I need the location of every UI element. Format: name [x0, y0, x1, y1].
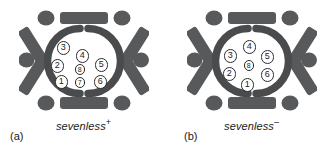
genotype-superscript-b: –: [274, 117, 279, 127]
panel-b: 1 2 3 4 5 6 8 sevenless– (b): [168, 0, 335, 157]
vertex-circle-top-right: [281, 11, 298, 26]
edge-bar-top: [228, 12, 276, 24]
inner-ring-arc-right: [256, 29, 289, 94]
vertex-circle-top-right: [113, 11, 130, 26]
edge-bar-bottom: [228, 97, 276, 109]
ommatidium-diagram-b: 1 2 3 4 5 6 8: [187, 4, 317, 116]
genotype-label-a: sevenless+: [56, 117, 111, 132]
vertex-circle-top-left: [205, 11, 222, 26]
vertex-circle-bottom-right: [281, 96, 298, 111]
inner-ring-arc-left: [215, 29, 248, 94]
pigment-cells-group-b: [187, 11, 317, 111]
inner-ring-group-a: [47, 29, 120, 94]
panel-label-b: (b): [184, 130, 197, 142]
vertex-circle-bottom-right: [113, 96, 130, 111]
vertex-circle-bottom-left: [205, 96, 222, 111]
panel-a: 1 2 3 4 5 6 7 8 sevenless+ (a): [0, 0, 167, 157]
inner-ring-arc-left: [47, 29, 80, 94]
inner-ring-arc-right: [88, 29, 121, 94]
ommatidium-diagram-a: 1 2 3 4 5 6 7 8: [19, 4, 149, 116]
panel-label-a: (a): [10, 130, 23, 142]
figure-ommatidia-comparison: 1 2 3 4 5 6 7 8 sevenless+ (a): [0, 0, 335, 157]
genotype-name-a: sevenless: [56, 120, 106, 132]
pigment-cells-group-a: [19, 11, 149, 111]
genotype-label-b: sevenless–: [224, 117, 279, 132]
edge-bar-top: [60, 12, 108, 24]
vertex-circle-top-left: [37, 11, 54, 26]
edge-bar-bottom: [60, 97, 108, 109]
vertex-circle-bottom-left: [37, 96, 54, 111]
genotype-superscript-a: +: [106, 117, 111, 127]
inner-ring-group-b: [215, 29, 288, 94]
genotype-name-b: sevenless: [224, 120, 274, 132]
